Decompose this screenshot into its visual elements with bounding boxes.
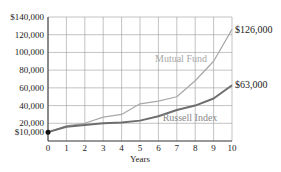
y-tick-label: 40,000	[19, 101, 44, 111]
y-tick-label: $140,000	[10, 12, 44, 22]
x-tick-label: 6	[156, 143, 161, 153]
x-axis-label: Years	[130, 154, 151, 164]
y-tick-label: $10,000	[15, 127, 45, 137]
y-axis-ticks: $140,000120,000100,00080,00060,00040,000…	[10, 12, 44, 137]
x-tick-label: 8	[193, 143, 198, 153]
x-tick-label: 5	[138, 143, 143, 153]
y-tick-label: 120,000	[15, 30, 45, 40]
x-tick-label: 4	[119, 143, 124, 153]
russell-index-label: Russell Index	[163, 112, 218, 123]
x-tick-label: 1	[64, 143, 69, 153]
y-tick-label: 80,000	[19, 65, 44, 75]
mutual-fund-label: Mutual Fund	[155, 53, 207, 64]
x-tick-label: 2	[83, 143, 88, 153]
x-axis-ticks: 012345678910	[46, 143, 237, 153]
start-point-marker	[46, 130, 51, 135]
x-tick-label: 3	[101, 143, 106, 153]
x-tick-label: 9	[211, 143, 216, 153]
mutual-fund-end-value: $126,000	[235, 24, 273, 35]
y-tick-label: 60,000	[19, 83, 44, 93]
x-tick-label: 0	[46, 143, 51, 153]
y-tick-label: 100,000	[15, 47, 45, 57]
line-chart: $140,000120,000100,00080,00060,00040,000…	[0, 0, 281, 172]
x-tick-label: 10	[228, 143, 238, 153]
russell-end-value: $63,000	[235, 79, 268, 90]
x-tick-label: 7	[175, 143, 180, 153]
